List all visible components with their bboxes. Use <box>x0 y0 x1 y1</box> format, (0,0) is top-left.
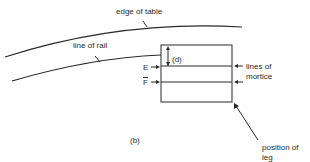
label-lines-of-mortice-1: lines of <box>246 62 271 71</box>
label-position-of-leg-1: position of <box>262 143 298 152</box>
dimension-d-arrowhead-up <box>166 46 170 50</box>
label-dimension-d: (d) <box>172 55 182 64</box>
arrow-f-head <box>156 80 160 84</box>
label-lines-of-mortice-2: mortice <box>246 72 272 81</box>
label-point-f: F <box>143 78 148 87</box>
arrow-leg-head <box>234 103 239 109</box>
arrow-e-head <box>156 65 160 69</box>
leg-box <box>161 45 232 102</box>
label-point-e: E <box>143 63 148 72</box>
label-position-of-leg-2: leg <box>262 153 273 162</box>
line-of-rail-curve <box>12 55 161 81</box>
arrow-leg-shaft <box>236 106 258 140</box>
edge-of-table-leader <box>143 21 147 27</box>
label-line-of-rail: line of rail <box>73 41 107 50</box>
label-edge-of-table: edge of table <box>116 7 162 16</box>
dimension-d-arrowhead-down <box>166 62 170 66</box>
panel-label: (b) <box>130 136 140 145</box>
diagram-canvas: edge of table line of rail (d) E F lines… <box>0 0 310 162</box>
arrow-mortice-1-head <box>234 64 238 68</box>
arrow-mortice-2-head <box>234 80 238 84</box>
diagram-drawing <box>0 0 310 162</box>
edge-of-table-curve <box>5 26 242 57</box>
